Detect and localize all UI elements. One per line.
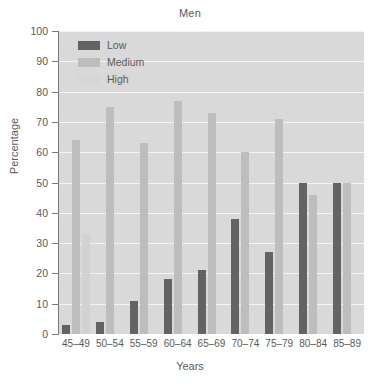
bar-medium xyxy=(208,113,216,334)
x-axis-tick-label: 80–84 xyxy=(299,338,327,349)
y-axis-tick-label: 30 xyxy=(8,237,48,249)
bar-group xyxy=(299,31,327,334)
y-axis-tick-mark xyxy=(52,31,58,32)
bar-medium xyxy=(106,107,114,334)
bar-low xyxy=(130,301,138,334)
bar-group xyxy=(164,31,192,334)
bar-medium xyxy=(309,195,317,334)
bar-low xyxy=(62,325,70,334)
legend-item-high: High xyxy=(78,72,144,87)
legend-label: Low xyxy=(107,40,126,51)
bar-medium xyxy=(174,101,182,334)
bar-medium xyxy=(72,140,80,334)
y-axis-tick-label: 60 xyxy=(8,146,48,158)
chart-title: Men xyxy=(0,7,380,19)
y-axis-tick-label: 20 xyxy=(8,267,48,279)
legend-swatch-icon xyxy=(78,58,100,67)
legend-swatch-icon xyxy=(78,75,100,84)
bar-group xyxy=(198,31,226,334)
bar-medium xyxy=(275,119,283,334)
bar-medium xyxy=(241,152,249,334)
y-axis-tick-mark xyxy=(52,273,58,274)
y-axis-tick-label: 40 xyxy=(8,207,48,219)
y-axis-tick-mark xyxy=(52,334,58,335)
y-axis-tick-label: 100 xyxy=(8,25,48,37)
bar-low xyxy=(299,183,307,335)
bar-medium xyxy=(343,183,351,335)
bar-chart: Men Percentage 0102030405060708090100 45… xyxy=(0,0,380,384)
bar-medium xyxy=(140,143,148,334)
bar-low xyxy=(231,219,239,334)
y-axis-tick-label: 90 xyxy=(8,55,48,67)
y-axis-tick-mark xyxy=(52,304,58,305)
legend-label: Medium xyxy=(107,57,144,68)
bar-low xyxy=(96,322,104,334)
legend-item-medium: Medium xyxy=(78,55,144,70)
y-axis-tick-mark xyxy=(52,183,58,184)
x-axis-tick-label: 70–74 xyxy=(231,338,259,349)
y-axis-tick-label: 80 xyxy=(8,86,48,98)
x-axis-tick-label: 65–69 xyxy=(198,338,226,349)
x-axis-tick-label: 85–89 xyxy=(333,338,361,349)
bar-low xyxy=(164,279,172,334)
bar-group xyxy=(333,31,361,334)
y-axis-tick-label: 70 xyxy=(8,116,48,128)
y-axis-tick-mark xyxy=(52,152,58,153)
bar-group xyxy=(265,31,293,334)
bar-low xyxy=(198,270,206,334)
y-axis-tick-mark xyxy=(52,61,58,62)
legend-item-low: Low xyxy=(78,38,144,53)
x-axis-tick-label: 60–64 xyxy=(164,338,192,349)
bar-high xyxy=(82,234,90,334)
y-axis-tick-mark xyxy=(52,122,58,123)
legend-swatch-icon xyxy=(78,41,100,50)
x-axis-tick-label: 75–79 xyxy=(265,338,293,349)
y-axis-tick-label: 50 xyxy=(8,177,48,189)
bar-group xyxy=(231,31,259,334)
legend: LowMediumHigh xyxy=(78,38,144,89)
x-axis-tick-label: 45–49 xyxy=(62,338,90,349)
y-axis-tick-label: 10 xyxy=(8,298,48,310)
y-axis-tick-mark xyxy=(52,213,58,214)
bar-low xyxy=(265,252,273,334)
x-axis-tick-label: 55–59 xyxy=(130,338,158,349)
y-axis-tick-mark xyxy=(52,243,58,244)
x-axis-tick-label: 50–54 xyxy=(96,338,124,349)
y-axis-tick-mark xyxy=(52,92,58,93)
x-axis-label: Years xyxy=(0,360,380,372)
legend-label: High xyxy=(107,74,129,85)
bar-low xyxy=(333,183,341,335)
y-axis-tick-label: 0 xyxy=(8,328,48,340)
